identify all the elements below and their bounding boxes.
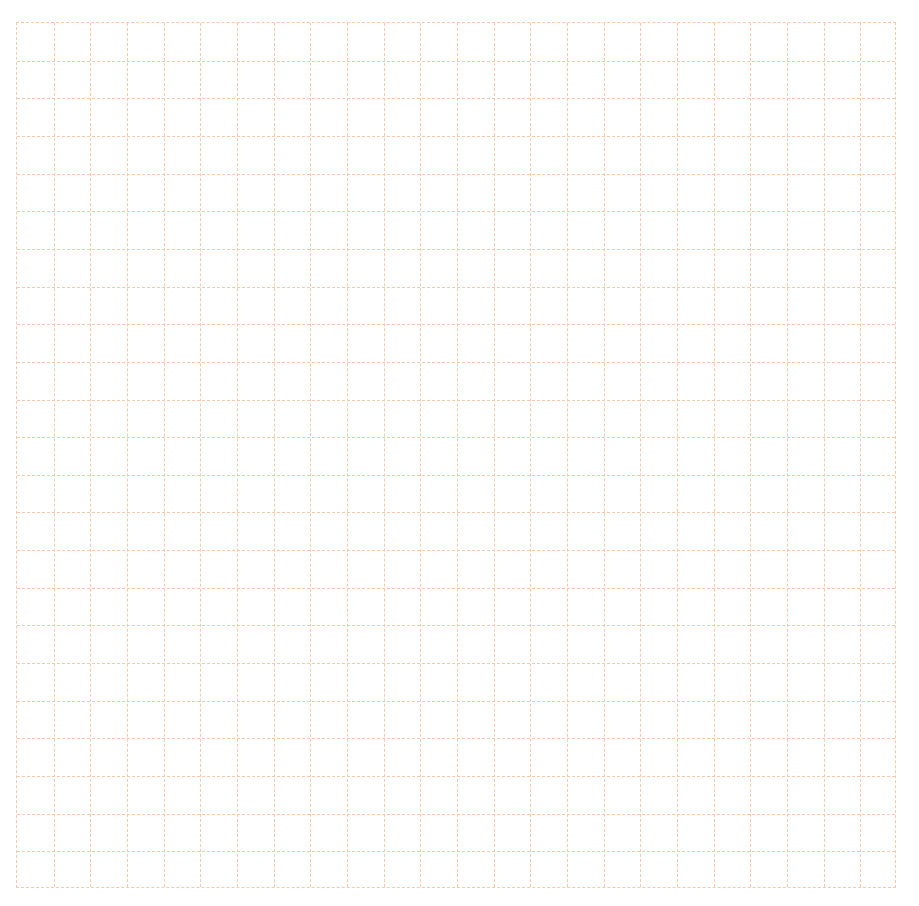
grid-row-line [17,776,895,777]
grid-row-line [17,362,895,363]
grid-column-line [54,23,55,887]
grid-column-line [164,23,165,887]
grid-column-line [384,23,385,887]
grid-row-line [17,701,895,702]
page-title [0,0,919,10]
grid-column-line [274,23,275,887]
grid-column-line [457,23,458,887]
grid-column-line [530,23,531,887]
grid-row-line [17,211,895,212]
grid-column-line [494,23,495,887]
grid-column-line [90,23,91,887]
grid-row-line [17,550,895,551]
grid-row-line [17,437,895,438]
grid-row-line [17,136,895,137]
grid-column-line [750,23,751,887]
grid-column-line [824,23,825,887]
grid-row-line [17,475,895,476]
grid-row-line [17,512,895,513]
grid-row-line [17,851,895,852]
title-clip [0,0,919,12]
grid-row-line [17,61,895,62]
grid-row-line [17,174,895,175]
grid-column-line [787,23,788,887]
grid-row-line [17,400,895,401]
grid-row-line [17,588,895,589]
grid-column-line [310,23,311,887]
grid-column-line [127,23,128,887]
grid-row-line [17,98,895,99]
grid-row-line [17,738,895,739]
grid-column-line [714,23,715,887]
grid-row-line [17,324,895,325]
grid-column-line [604,23,605,887]
grid-row-line [17,249,895,250]
grid-column-line [677,23,678,887]
grid-column-line [347,23,348,887]
writing-grid [16,22,896,888]
grid-column-line [200,23,201,887]
grid-row-line [17,814,895,815]
grid-column-line [237,23,238,887]
grid-row-line [17,625,895,626]
grid-column-line [860,23,861,887]
grid-column-line [640,23,641,887]
grid-column-line [420,23,421,887]
grid-row-line [17,287,895,288]
grid-row-line [17,663,895,664]
grid-column-line [567,23,568,887]
